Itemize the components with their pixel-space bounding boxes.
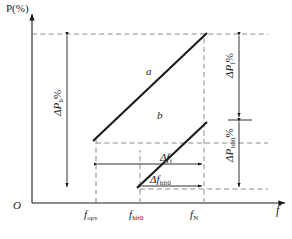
x-axis-label: f [276,204,279,216]
label-delta-p-f: ΔPf% [224,53,236,78]
label-delta-p-hft0: ΔPhft0% [224,128,236,162]
power-frequency-diagram: P(%) f O fopv fhft0 fN a b ΔPb% ΔPf% ΔPh… [0,0,292,239]
origin-label: O [13,200,21,211]
label-delta-f-hft0: Δfhft0 [150,174,171,186]
curve-label-b: b [157,110,163,121]
curve-label-a: a [146,66,152,77]
x-tick-hft0: fhft0 [129,209,143,221]
label-delta-p-b: ΔPb% [52,90,64,116]
curve-a [93,33,207,141]
x-tick-opv: fopv [84,209,98,221]
x-tick-fn: fN [190,209,198,221]
label-delta-f-f: Δff [160,152,172,164]
y-axis-label: P(%) [6,3,29,14]
diagram-canvas [0,0,292,239]
